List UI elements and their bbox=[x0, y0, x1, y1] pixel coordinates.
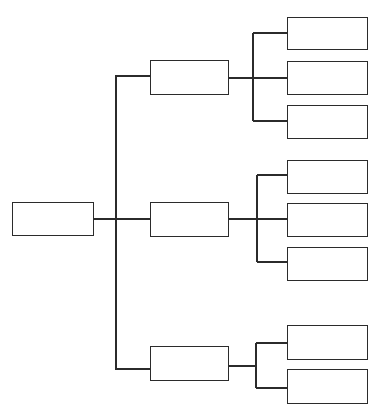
level3-node-g3-2[interactable] bbox=[287, 369, 368, 404]
level3-node-g2-2[interactable] bbox=[287, 203, 368, 237]
level3-node-g1-1[interactable] bbox=[287, 17, 368, 50]
tree-diagram bbox=[0, 0, 377, 410]
level2-node-middle[interactable] bbox=[150, 202, 229, 237]
level2-node-top[interactable] bbox=[150, 60, 229, 95]
root-node[interactable] bbox=[12, 202, 94, 236]
level3-node-g2-1[interactable] bbox=[287, 160, 368, 194]
level3-node-g3-1[interactable] bbox=[287, 325, 368, 360]
level3-node-g2-3[interactable] bbox=[287, 247, 368, 281]
level3-node-g1-2[interactable] bbox=[287, 61, 368, 95]
level3-node-g1-3[interactable] bbox=[287, 105, 368, 139]
level2-node-bottom[interactable] bbox=[150, 346, 229, 381]
